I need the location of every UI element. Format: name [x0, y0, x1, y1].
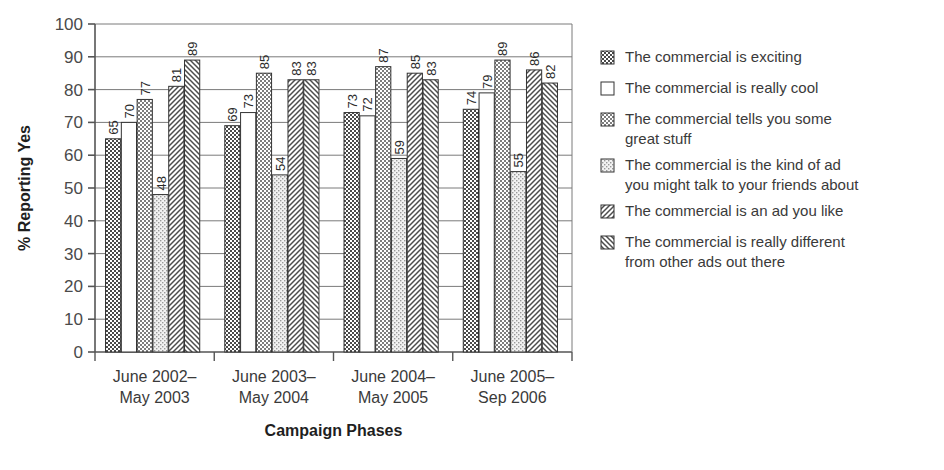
legend-swatch-0: [601, 51, 614, 64]
bar-value-label-3-5: 82: [543, 65, 558, 79]
bar-0-4: [169, 86, 184, 352]
bar-3-2: [495, 60, 510, 352]
bar-value-label-1-3: 54: [273, 156, 288, 170]
legend-label-4: The commercial is an ad you like: [625, 202, 843, 219]
bar-2-2: [376, 67, 391, 352]
x-axis-title: Campaign Phases: [265, 422, 403, 439]
ytick-label-100: 100: [55, 15, 83, 34]
ytick-label-90: 90: [64, 48, 83, 67]
category-label-2-line-0: June 2004–: [351, 368, 435, 385]
legend-label-3-line-1: you might talk to your friends about: [625, 176, 859, 193]
bar-chart-figure: 0102030405060708090100657077488189697385…: [0, 0, 944, 470]
y-axis-title: % Reporting Yes: [16, 125, 33, 251]
bar-1-5: [304, 80, 319, 352]
ytick-label-70: 70: [64, 113, 83, 132]
ytick-label-40: 40: [64, 212, 83, 231]
bar-3-5: [542, 83, 557, 352]
page-footer-cutoff: [0, 462, 944, 470]
bar-value-label-3-2: 89: [495, 42, 510, 56]
category-label-3-line-0: June 2005–: [471, 368, 555, 385]
bar-value-label-0-2: 77: [138, 81, 153, 95]
bar-value-label-2-1: 72: [360, 97, 375, 111]
bar-value-label-0-4: 81: [169, 68, 184, 82]
category-label-0-line-0: June 2002–: [113, 368, 197, 385]
legend-swatch-4: [601, 205, 614, 218]
category-label-1-line-1: May 2004: [239, 389, 309, 406]
legend-label-5-line-1: from other ads out there: [625, 253, 785, 270]
ytick-label-80: 80: [64, 81, 83, 100]
legend-label-0: The commercial is exciting: [625, 48, 802, 65]
bar-value-label-1-0: 69: [225, 107, 240, 121]
bar-3-0: [463, 109, 478, 352]
bar-3-4: [526, 70, 541, 352]
bar-0-3: [153, 195, 168, 352]
bar-0-0: [106, 139, 121, 352]
legend-label-3-line-0: The commercial is the kind of ad: [625, 156, 841, 173]
bar-1-1: [241, 113, 256, 352]
bar-value-label-2-2: 87: [376, 48, 391, 62]
bar-2-1: [360, 116, 375, 352]
bar-value-label-0-5: 89: [185, 42, 200, 56]
ytick-label-30: 30: [64, 245, 83, 264]
category-label-1-line-0: June 2003–: [232, 368, 316, 385]
bar-3-1: [479, 93, 494, 352]
bar-value-label-1-2: 85: [257, 55, 272, 69]
bar-value-label-0-0: 65: [106, 120, 121, 134]
bar-value-label-0-3: 48: [154, 176, 169, 190]
legend-label-5-line-0: The commercial is really different: [625, 233, 846, 250]
bar-3-3: [511, 172, 526, 352]
bar-2-4: [407, 73, 422, 352]
bar-value-label-2-0: 73: [345, 94, 360, 108]
legend-swatch-5: [601, 236, 614, 249]
category-label-3-line-1: Sep 2006: [478, 389, 547, 406]
ytick-label-50: 50: [64, 179, 83, 198]
bar-2-3: [391, 158, 406, 352]
bar-value-label-1-5: 83: [304, 61, 319, 75]
bar-value-label-0-1: 70: [122, 104, 137, 118]
ytick-label-20: 20: [64, 277, 83, 296]
chart-svg: 0102030405060708090100657077488189697385…: [0, 0, 944, 470]
bar-value-label-2-5: 83: [424, 61, 439, 75]
ytick-label-0: 0: [74, 343, 83, 362]
bar-value-label-3-0: 74: [464, 91, 479, 105]
bar-0-1: [121, 122, 136, 352]
bar-1-4: [288, 80, 303, 352]
legend-swatch-2: [601, 113, 614, 126]
ytick-label-10: 10: [64, 310, 83, 329]
bar-value-label-1-4: 83: [289, 61, 304, 75]
ytick-label-60: 60: [64, 146, 83, 165]
bar-0-5: [185, 60, 200, 352]
bar-2-0: [344, 113, 359, 352]
legend: The commercial is excitingThe commercial…: [601, 48, 859, 270]
legend-label-1: The commercial is really cool: [625, 79, 818, 96]
bar-1-2: [256, 73, 271, 352]
bar-value-label-3-1: 79: [480, 74, 495, 88]
bar-1-0: [225, 126, 240, 352]
bar-value-label-3-3: 55: [511, 153, 526, 167]
category-label-2-line-1: May 2005: [358, 389, 428, 406]
bar-2-5: [423, 80, 438, 352]
bar-value-label-2-4: 85: [408, 55, 423, 69]
bars-group: [106, 60, 558, 361]
category-label-0-line-1: May 2003: [119, 389, 189, 406]
bar-value-label-3-4: 86: [527, 51, 542, 65]
bar-value-label-2-3: 59: [392, 140, 407, 154]
bar-0-2: [137, 99, 152, 352]
legend-swatch-3: [601, 159, 614, 172]
legend-swatch-1: [601, 82, 614, 95]
legend-label-2-line-0: The commercial tells you some: [625, 110, 832, 127]
bar-1-3: [272, 175, 287, 352]
bar-value-label-1-1: 73: [241, 94, 256, 108]
legend-label-2-line-1: great stuff: [625, 130, 692, 147]
